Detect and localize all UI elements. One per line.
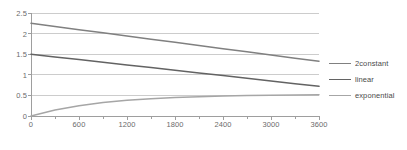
- x-axis-tick-label: 0: [29, 120, 33, 129]
- x-axis-tick-labels: 060012001800240030003600: [31, 120, 319, 134]
- y-axis-tick-labels: 00.511.522.5: [0, 13, 27, 116]
- legend-item[interactable]: 2constant: [329, 57, 407, 70]
- y-axis-tick-label: 1: [23, 70, 27, 79]
- x-axis-tick-label: 1800: [166, 120, 183, 129]
- series-line-2constant: [31, 23, 319, 61]
- x-axis-tick-label: 3000: [262, 120, 279, 129]
- y-axis-tick-label: 2.5: [16, 9, 27, 18]
- legend-item[interactable]: linear: [329, 73, 407, 86]
- legend-item-label: 2constant: [355, 59, 388, 68]
- plot-svg: [31, 13, 319, 116]
- legend-line-swatch: [329, 63, 351, 64]
- legend-item-label: linear: [355, 75, 374, 84]
- legend-line-swatch: [329, 95, 351, 96]
- y-axis-tick-label: 0.5: [16, 91, 27, 100]
- legend-item-label: exponential: [355, 91, 394, 100]
- plot-area: [31, 13, 319, 116]
- x-axis-tick-label: 600: [73, 120, 86, 129]
- series-line-exponential: [31, 95, 319, 116]
- x-axis-tick-label: 2400: [214, 120, 231, 129]
- y-axis-tick-label: 2: [23, 29, 27, 38]
- x-axis-tick-label: 1200: [118, 120, 135, 129]
- y-axis-tick-label: 0: [23, 112, 27, 121]
- y-axis-tick-label: 1.5: [16, 50, 27, 59]
- line-chart: 00.511.522.5 060012001800240030003600 2c…: [0, 0, 407, 150]
- x-axis-tick-label: 3600: [310, 120, 327, 129]
- legend-item[interactable]: exponential: [329, 89, 407, 102]
- legend-line-swatch: [329, 79, 351, 80]
- series-line-linear: [31, 54, 319, 86]
- chart-legend: 2constantlinearexponential: [329, 57, 407, 105]
